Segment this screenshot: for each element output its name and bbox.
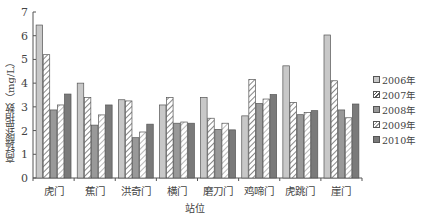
- bar: [263, 99, 270, 178]
- legend-item-2008: 2008年: [373, 102, 416, 117]
- y-tick-label: 4: [21, 77, 28, 90]
- bar: [36, 25, 43, 178]
- legend: 2006年 2007年 2008年 2009年 2010年: [373, 72, 416, 147]
- legend-item-2006: 2006年: [373, 72, 416, 87]
- legend-swatch-icon: [373, 136, 380, 143]
- x-tick-label: 虎门: [44, 185, 64, 197]
- bar: [283, 66, 290, 178]
- bar: [215, 129, 222, 178]
- x-tick-label: 鸡啼门: [244, 185, 274, 197]
- legend-item-2010: 2010年: [373, 132, 416, 147]
- bar: [324, 35, 331, 178]
- bars: [36, 25, 359, 178]
- bar: [311, 111, 318, 178]
- bar: [65, 94, 72, 178]
- bar: [229, 130, 236, 178]
- y-tick-label: 1: [21, 148, 28, 161]
- x-tick-label: 崖门: [331, 185, 351, 197]
- bar: [43, 55, 50, 178]
- x-tick-label: 洪奇门: [121, 185, 151, 197]
- bar: [304, 113, 311, 178]
- bar: [249, 79, 256, 178]
- legend-item-2007: 2007年: [373, 87, 416, 102]
- legend-swatch-icon: [373, 76, 380, 83]
- bar: [159, 105, 166, 178]
- y-tick-label: 0: [21, 172, 28, 185]
- bar: [208, 118, 215, 178]
- bar: [91, 125, 98, 178]
- bar: [270, 95, 277, 178]
- legend-swatch-icon: [373, 121, 380, 128]
- bar: [99, 115, 106, 178]
- bar: [84, 98, 91, 178]
- bar: [106, 105, 113, 178]
- bar: [140, 132, 147, 178]
- bar: [188, 123, 195, 178]
- bar: [174, 123, 181, 178]
- x-tick-label: 横门: [167, 185, 187, 197]
- bar: [133, 138, 140, 178]
- legend-swatch-icon: [373, 106, 380, 113]
- bar: [118, 100, 125, 178]
- bar: [77, 83, 84, 178]
- bar: [352, 104, 359, 178]
- legend-swatch-icon: [373, 91, 380, 98]
- x-tick-label: 磨刀门: [203, 185, 233, 197]
- bar: [167, 98, 174, 178]
- y-tick-label: 3: [21, 101, 28, 114]
- y-axis-title: 高锰酸盐指数（mg/L）: [2, 40, 18, 180]
- x-tick-label: 虎跳门: [285, 185, 315, 197]
- bar: [50, 110, 57, 178]
- bar: [338, 110, 345, 178]
- bar: [290, 102, 297, 178]
- y-tick-label: 5: [21, 53, 28, 66]
- y-tick-label: 7: [21, 6, 28, 19]
- bar: [345, 118, 352, 178]
- bar: [201, 97, 208, 178]
- bar: [57, 105, 64, 178]
- bar: [222, 123, 229, 178]
- y-tick-label: 6: [21, 30, 28, 43]
- bar: [147, 124, 154, 178]
- y-tick-label: 2: [21, 125, 28, 138]
- bar-chart: 01234567虎门蕉门洪奇门横门磨刀门鸡啼门虎跳门崖门: [0, 0, 423, 220]
- bar: [256, 104, 263, 178]
- bar: [297, 115, 304, 178]
- bar: [181, 122, 188, 178]
- bar: [125, 101, 131, 178]
- x-tick-label: 蕉门: [85, 185, 105, 197]
- legend-item-2009: 2009年: [373, 117, 416, 132]
- bar: [331, 81, 338, 178]
- bar: [242, 116, 249, 178]
- x-axis-title: 站位: [30, 200, 360, 215]
